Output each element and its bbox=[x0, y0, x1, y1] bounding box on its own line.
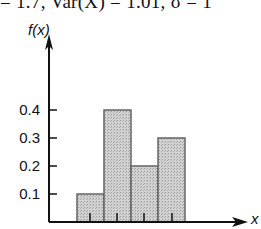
histogram-bar bbox=[104, 110, 131, 222]
histogram-plot bbox=[0, 0, 261, 229]
bars-group bbox=[77, 110, 185, 222]
y-ticks bbox=[49, 110, 57, 194]
histogram-bar bbox=[158, 138, 185, 222]
